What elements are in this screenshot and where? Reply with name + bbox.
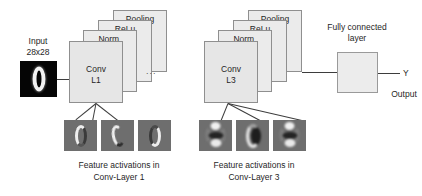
fully-connected-layer-box (337, 52, 378, 93)
plate-conv-l3: Conv L3 (204, 41, 258, 103)
activation-map-conv1-2 (101, 120, 134, 151)
input-label-line1: Input (29, 36, 48, 46)
connector-conv3-to-fc (302, 72, 338, 73)
input-digit-thumbnail (20, 61, 57, 97)
activation-glyph (282, 124, 297, 148)
caption-conv1-line2: Conv-Layer 1 (93, 172, 144, 182)
activation-glyph (208, 124, 223, 148)
plate-conv-l1-label-line1: Conv (70, 64, 122, 74)
input-label-line2: 28x28 (26, 47, 49, 57)
output-label: Output (391, 89, 417, 99)
digit-zero-glyph (32, 67, 45, 92)
activation-map-conv1-1 (64, 120, 97, 151)
activation-map-conv3-1 (199, 120, 232, 151)
ellipsis-separator: ... (146, 66, 157, 76)
plate-conv-l3-label-line1: Conv (205, 64, 257, 74)
output-symbol: Y (403, 68, 409, 78)
plate-conv-l1: Conv L1 (69, 41, 123, 103)
caption-conv1-line1: Feature activations in (79, 160, 160, 170)
fully-connected-label-line2: layer (348, 33, 366, 43)
caption-conv3-line2: Conv-Layer 3 (228, 172, 279, 182)
connector-conv3-map3 (228, 103, 304, 122)
activation-map-conv3-2 (236, 120, 269, 151)
activation-map-conv1-3 (138, 120, 171, 151)
connector-fc-to-output (378, 73, 400, 74)
activation-glyph (109, 123, 125, 147)
caption-conv3-line1: Feature activations in (214, 160, 295, 170)
cnn-architecture-diagram: Input 28x28 Pooling ReLu Norm. Conv L1 .… (0, 0, 422, 196)
fully-connected-label-line1: Fully connected (327, 22, 387, 32)
activation-map-conv3-3 (273, 120, 306, 151)
activation-glyph (245, 124, 261, 148)
plate-conv-l1-label-line2: L1 (70, 75, 122, 85)
activation-glyph (149, 125, 161, 147)
activation-glyph (75, 125, 87, 147)
plate-conv-l3-label-line2: L3 (205, 75, 257, 85)
